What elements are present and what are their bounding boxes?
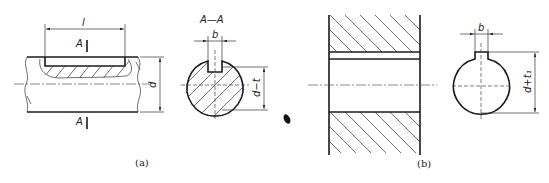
length-label: l [82,17,85,28]
section-mark-top: A [75,38,83,49]
shaft-view: l A A d [14,17,164,129]
keyway-width-label: b [212,29,218,40]
shaft-section-view: A—A b d−t [180,14,268,120]
section-title: A—A [199,14,224,25]
hub-hatching-bottom [285,97,465,157]
diameter-label: d [147,81,158,88]
hub-section-view: b d+t₁ [452,22,539,120]
technical-drawing: l A A d A—A b [0,0,549,183]
caption-a: (a) [135,157,149,168]
hub-section-outline [454,52,510,114]
shaft-hatching [40,60,142,82]
hub-hatching-top [285,0,465,60]
section-mark-bottom: A [75,116,83,127]
hub-keyway-width-label: b [478,22,484,33]
ink-blot [282,113,292,125]
hub-view [285,0,465,157]
left-break-line [25,57,28,112]
depth-label: d−t [251,77,262,97]
keyway-outline [45,57,125,66]
caption-b: (b) [417,158,431,169]
hub-depth-label: d+t₁ [522,70,533,93]
